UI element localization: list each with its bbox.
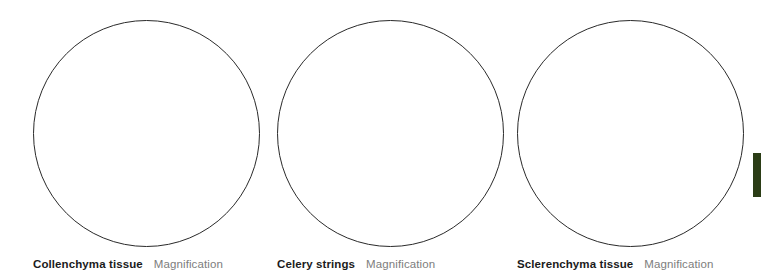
- specimen-panel-celery-strings: Celery stringsMagnification: [245, 0, 515, 273]
- specimen-panel-collenchyma-tissue: Collenchyma tissueMagnification: [0, 0, 270, 273]
- caption-collenchyma-tissue: Collenchyma tissueMagnification: [33, 256, 223, 271]
- green-edge-marker: [753, 153, 761, 197]
- specimen-name-label: Celery strings: [277, 258, 355, 270]
- caption-sclerenchyma-tissue: Sclerenchyma tissueMagnification: [517, 256, 713, 271]
- magnification-label: Magnification: [366, 258, 435, 270]
- drawing-circle-sclerenchyma-tissue[interactable]: [517, 20, 744, 247]
- specimen-panel-sclerenchyma-tissue: Sclerenchyma tissueMagnification: [485, 0, 761, 273]
- caption-celery-strings: Celery stringsMagnification: [277, 256, 435, 271]
- drawing-circle-collenchyma-tissue[interactable]: [33, 20, 260, 247]
- magnification-label: Magnification: [644, 258, 713, 270]
- magnification-label: Magnification: [154, 258, 223, 270]
- specimen-name-label: Collenchyma tissue: [33, 258, 143, 270]
- observation-worksheet: Collenchyma tissueMagnification Celery s…: [0, 0, 761, 273]
- drawing-circle-celery-strings[interactable]: [277, 20, 504, 247]
- specimen-name-label: Sclerenchyma tissue: [517, 258, 633, 270]
